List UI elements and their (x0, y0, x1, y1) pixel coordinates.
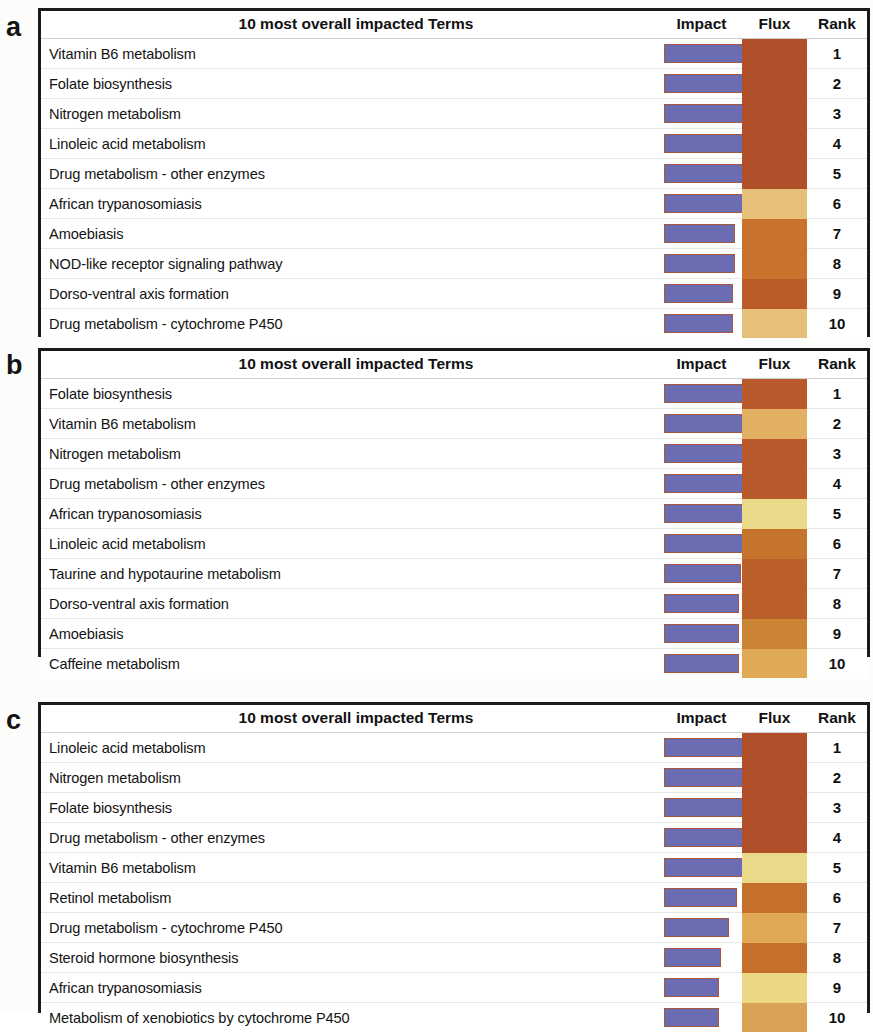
flux-cell (742, 733, 807, 763)
impact-cell (661, 309, 742, 339)
rank-value: 5 (807, 853, 867, 883)
impact-bar (664, 314, 733, 333)
table-row: Caffeine metabolism10 (41, 649, 867, 679)
flux-cell (742, 823, 807, 853)
rank-value: 4 (807, 823, 867, 853)
table-row: NOD-like receptor signaling pathway8 (41, 249, 867, 279)
flux-color-swatch (742, 409, 807, 439)
term-label: Drug metabolism - other enzymes (41, 823, 661, 853)
impact-cell (661, 559, 742, 589)
column-header-flux: Flux (742, 705, 807, 733)
impact-cell (661, 189, 742, 219)
impact-cell (661, 733, 742, 763)
table-row: Steroid hormone biosynthesis8 (41, 943, 867, 973)
term-label: African trypanosomiasis (41, 189, 661, 219)
impact-bar (664, 918, 729, 937)
flux-cell (742, 69, 807, 99)
rank-value: 3 (807, 793, 867, 823)
column-header-terms: 10 most overall impacted Terms (41, 351, 661, 379)
rank-value: 10 (807, 649, 867, 679)
impact-cell (661, 649, 742, 679)
flux-color-swatch (742, 619, 807, 649)
term-label: Drug metabolism - other enzymes (41, 159, 661, 189)
rank-value: 1 (807, 733, 867, 763)
term-label: African trypanosomiasis (41, 499, 661, 529)
impact-bar (664, 624, 739, 643)
impact-bar (664, 44, 745, 63)
panel-label-c: c (6, 707, 21, 734)
flux-color-swatch (742, 559, 807, 589)
flux-color-swatch (742, 219, 807, 249)
flux-cell (742, 409, 807, 439)
rank-value: 4 (807, 129, 867, 159)
impact-bar (664, 74, 745, 93)
flux-color-swatch (742, 793, 807, 823)
term-label: NOD-like receptor signaling pathway (41, 249, 661, 279)
impact-cell (661, 589, 742, 619)
flux-cell (742, 379, 807, 409)
term-label: Dorso-ventral axis formation (41, 589, 661, 619)
table-body-b: Folate biosynthesis1Vitamin B6 metabolis… (41, 379, 867, 679)
impact-bar (664, 194, 745, 213)
flux-color-swatch (742, 249, 807, 279)
rank-value: 7 (807, 559, 867, 589)
flux-color-swatch (742, 39, 807, 69)
table-row: Dorso-ventral axis formation8 (41, 589, 867, 619)
flux-color-swatch (742, 883, 807, 913)
flux-cell (742, 853, 807, 883)
term-label: Folate biosynthesis (41, 793, 661, 823)
flux-color-swatch (742, 973, 807, 1003)
flux-cell (742, 1003, 807, 1032)
table-row: African trypanosomiasis6 (41, 189, 867, 219)
flux-color-swatch (742, 649, 807, 679)
table-header-c: 10 most overall impacted Terms Impact Fl… (41, 705, 867, 733)
rank-value: 6 (807, 883, 867, 913)
impact-bar (664, 738, 745, 757)
term-label: Amoebiasis (41, 619, 661, 649)
column-header-rank: Rank (807, 705, 867, 733)
term-label: Drug metabolism - cytochrome P450 (41, 309, 661, 339)
flux-cell (742, 279, 807, 309)
impact-bar (664, 134, 745, 153)
impact-bar (664, 978, 719, 997)
impact-cell (661, 129, 742, 159)
term-label: Drug metabolism - cytochrome P450 (41, 913, 661, 943)
impact-bar (664, 798, 745, 817)
rank-value: 9 (807, 973, 867, 1003)
term-label: Dorso-ventral axis formation (41, 279, 661, 309)
impact-cell (661, 943, 742, 973)
impact-bar (664, 504, 745, 523)
rank-value: 7 (807, 913, 867, 943)
flux-cell (742, 763, 807, 793)
flux-color-swatch (742, 439, 807, 469)
impact-cell (661, 69, 742, 99)
flux-color-swatch (742, 159, 807, 189)
rank-value: 1 (807, 379, 867, 409)
table-row: African trypanosomiasis9 (41, 973, 867, 1003)
impact-cell (661, 39, 742, 69)
impact-cell (661, 1003, 742, 1032)
table-row: Folate biosynthesis2 (41, 69, 867, 99)
column-header-impact: Impact (661, 705, 742, 733)
flux-cell (742, 793, 807, 823)
term-label: Caffeine metabolism (41, 649, 661, 679)
impact-cell (661, 793, 742, 823)
column-header-impact: Impact (661, 11, 742, 39)
impact-cell (661, 219, 742, 249)
rank-value: 3 (807, 99, 867, 129)
flux-color-swatch (742, 499, 807, 529)
term-label: Vitamin B6 metabolism (41, 409, 661, 439)
flux-color-swatch (742, 1003, 807, 1032)
impact-cell (661, 823, 742, 853)
rank-value: 8 (807, 589, 867, 619)
table-row: Dorso-ventral axis formation9 (41, 279, 867, 309)
flux-color-swatch (742, 913, 807, 943)
flux-cell (742, 439, 807, 469)
table-row: Nitrogen metabolism3 (41, 99, 867, 129)
impact-cell (661, 973, 742, 1003)
flux-cell (742, 99, 807, 129)
term-label: Vitamin B6 metabolism (41, 853, 661, 883)
term-label: Nitrogen metabolism (41, 99, 661, 129)
flux-color-swatch (742, 469, 807, 499)
impact-cell (661, 499, 742, 529)
